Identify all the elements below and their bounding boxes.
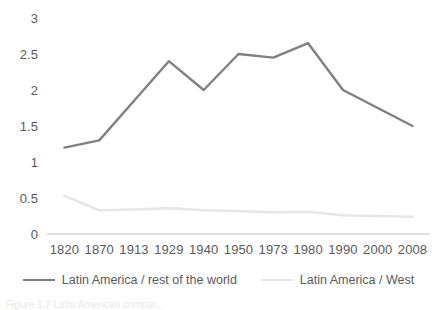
chart-legend: Latin America / rest of the worldLatin A… [0,268,437,292]
x-axis: 1820187019131929194019501973198019902000… [47,240,430,262]
x-tick-label: 2008 [395,240,430,262]
x-tick-label: 1940 [186,240,221,262]
caption-fragment: Figure 1.2 Latin American compar... [6,299,306,310]
legend-label: Latin America / West [300,273,414,287]
chart-plot-svg [0,0,437,262]
legend-swatch-icon [23,279,55,281]
legend-label: Latin America / rest of the world [62,273,237,287]
x-tick-label: 1973 [256,240,291,262]
plot-area: 00.511.522.53 18201870191319291940195019… [0,0,437,262]
x-tick-label: 1870 [82,240,117,262]
x-tick-label: 2000 [360,240,395,262]
line-chart: 00.511.522.53 18201870191319291940195019… [0,0,437,310]
series-line-latin-america-rest-of-world [64,43,412,147]
legend-entry[interactable]: Latin America / West [261,273,414,287]
x-tick-label: 1929 [151,240,186,262]
legend-entry[interactable]: Latin America / rest of the world [23,273,237,287]
x-tick-label: 1913 [117,240,152,262]
x-tick-label: 1990 [326,240,361,262]
x-tick-label: 1950 [221,240,256,262]
series-line-latin-america-west [64,196,412,217]
x-tick-label: 1820 [47,240,82,262]
legend-swatch-icon [261,279,293,281]
x-tick-label: 1980 [291,240,326,262]
